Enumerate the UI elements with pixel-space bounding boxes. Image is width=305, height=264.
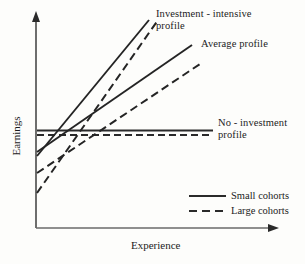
legend-label-small-cohorts: Small cohorts	[231, 190, 289, 201]
annotation-no-investment-profile: No - investment profile	[218, 117, 287, 140]
y-axis-label: Earnings	[10, 106, 22, 166]
x-axis-label: Experience	[131, 239, 180, 251]
y-axis-arrow-icon	[32, 11, 40, 22]
x-axis-arrow-icon	[268, 224, 279, 232]
x-axis	[36, 224, 279, 232]
series-investment-intensive-large	[37, 20, 158, 193]
y-axis	[32, 11, 40, 228]
annotation-investment-intensive-profile: Investment - intensive profile	[156, 8, 252, 31]
earnings-experience-figure: Investment - intensive profile Average p…	[0, 0, 305, 264]
legend-label-large-cohorts: Large cohorts	[231, 205, 289, 216]
annotation-average-profile: Average profile	[201, 38, 268, 50]
